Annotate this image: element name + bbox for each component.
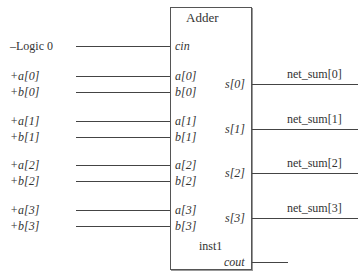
port-b2: b[2] <box>175 175 196 187</box>
port-cout: cout <box>224 256 245 268</box>
wire-s3[interactable] <box>252 218 358 219</box>
input-signal-a1: +a[1] <box>10 115 39 127</box>
wire-a2[interactable] <box>76 165 170 166</box>
wire-a3[interactable] <box>76 210 170 211</box>
wire-b3[interactable] <box>76 226 170 227</box>
port-a1: a[1] <box>175 115 196 127</box>
wire-b2[interactable] <box>76 181 170 182</box>
wire-b0[interactable] <box>76 92 170 93</box>
net-label-sum1: net_sum[1] <box>287 113 342 125</box>
port-a2: a[2] <box>175 159 196 171</box>
wire-b1[interactable] <box>76 137 170 138</box>
input-signal-b1: +b[1] <box>10 131 39 143</box>
port-cin: cin <box>175 40 190 52</box>
net-label-sum2: net_sum[2] <box>287 157 342 169</box>
input-signal-b3: +b[3] <box>10 220 39 232</box>
input-signal-b2: +b[2] <box>10 175 39 187</box>
wire-s1[interactable] <box>252 129 358 130</box>
wire-s0[interactable] <box>252 84 358 85</box>
wire-cout[interactable] <box>252 262 288 263</box>
net-label-sum0: net_sum[0] <box>287 68 342 80</box>
port-s0: s[0] <box>225 78 245 90</box>
input-signal-a3: +a[3] <box>10 204 39 216</box>
wire-s2[interactable] <box>252 173 358 174</box>
input-signal-cin: –Logic 0 <box>10 40 53 52</box>
block-title: Adder <box>186 12 219 24</box>
port-a3: a[3] <box>175 204 196 216</box>
input-signal-a0: +a[0] <box>10 70 39 82</box>
port-b3: b[3] <box>175 220 196 232</box>
wire-a1[interactable] <box>76 121 170 122</box>
port-s1: s[1] <box>225 123 245 135</box>
instance-name: inst1 <box>199 240 222 252</box>
port-b0: b[0] <box>175 86 196 98</box>
port-s2: s[2] <box>225 167 245 179</box>
port-b1: b[1] <box>175 131 196 143</box>
net-label-sum3: net_sum[3] <box>287 202 342 214</box>
wire-a0[interactable] <box>76 76 170 77</box>
input-signal-a2: +a[2] <box>10 159 39 171</box>
port-s3: s[3] <box>225 212 245 224</box>
wire-cin[interactable] <box>76 46 170 47</box>
port-a0: a[0] <box>175 70 196 82</box>
input-signal-b0: +b[0] <box>10 86 39 98</box>
